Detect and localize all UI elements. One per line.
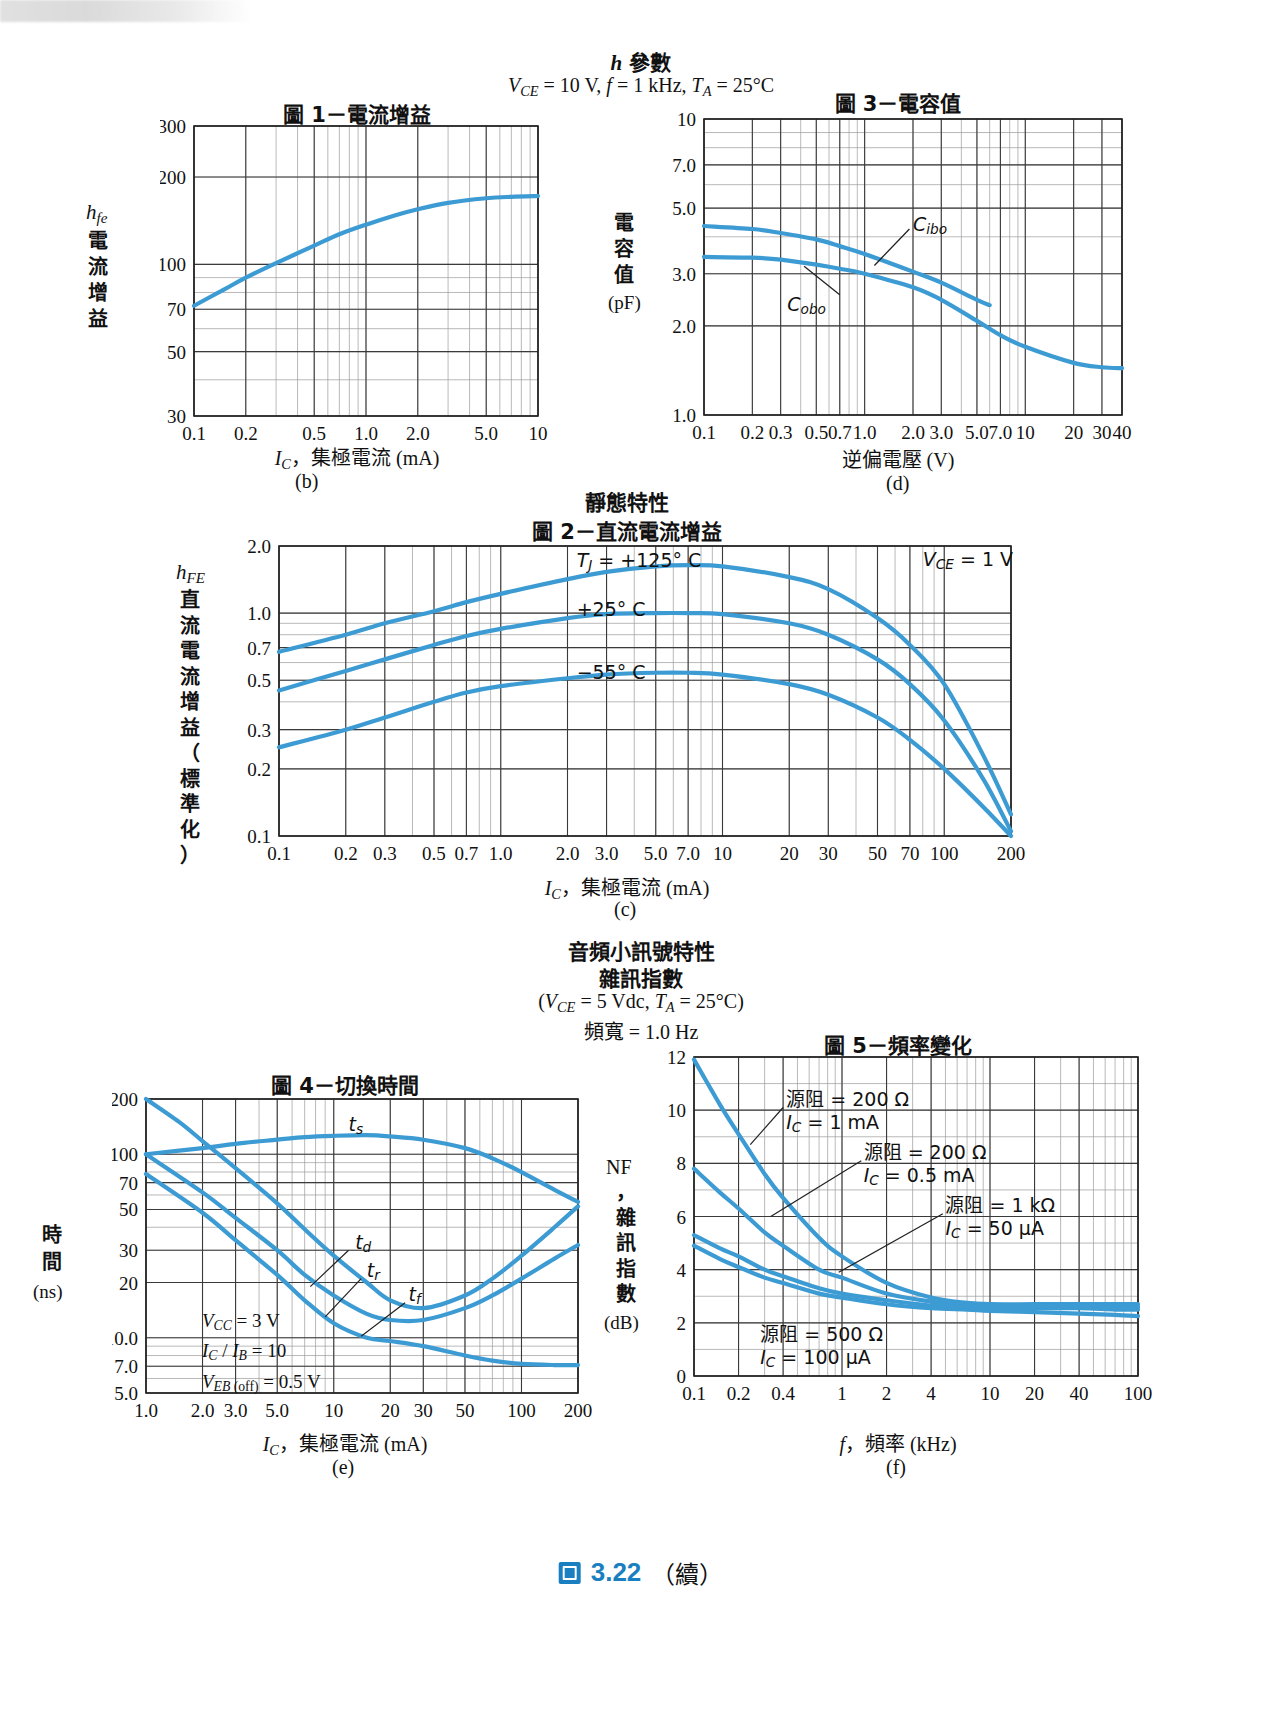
svg-text:5.0: 5.0: [474, 423, 498, 444]
svg-text:0.7: 0.7: [828, 422, 852, 443]
fig5-ylabel-symbol: NF: [606, 1156, 632, 1179]
svg-text:2.0: 2.0: [406, 423, 430, 444]
svg-text:70: 70: [167, 299, 186, 320]
svg-text:0.5: 0.5: [422, 843, 446, 864]
fig5-ylabel-unit: (dB): [604, 1312, 639, 1334]
h-params-title: h 參數: [611, 46, 672, 76]
svg-text:200: 200: [997, 843, 1026, 864]
svg-text:50: 50: [167, 342, 186, 363]
svg-text:70: 70: [900, 843, 919, 864]
svg-text:2.0: 2.0: [191, 1400, 215, 1421]
static-characteristics-title: 靜態特性: [585, 486, 669, 516]
fig2-panel-label: (c): [614, 898, 636, 921]
svg-text:10: 10: [713, 843, 732, 864]
svg-text:10: 10: [981, 1383, 1000, 1404]
fig5-annotation-1: 源阻 = 200 ΩIC = 0.5 mA: [864, 1141, 987, 1192]
figure-number: 3.22: [591, 1557, 642, 1588]
fig2-annotation-3: VCE = 1 V: [923, 548, 1013, 576]
fig2-ylabel: 直流電流增益（標準化）: [180, 588, 200, 869]
fig1-svg: 0.10.20.51.02.05.010305070100200300: [160, 120, 600, 466]
svg-text:0.5: 0.5: [302, 423, 326, 444]
svg-text:0.3: 0.3: [769, 422, 793, 443]
svg-text:200: 200: [112, 1093, 138, 1110]
svg-text:10: 10: [667, 1100, 686, 1121]
svg-text:20: 20: [1025, 1383, 1044, 1404]
svg-text:12: 12: [667, 1051, 686, 1068]
svg-text:2: 2: [677, 1313, 687, 1334]
h-params-condition: VCE = 10 V, f = 1 kHz, TA = 25°C: [508, 74, 774, 100]
fig5-annotation-2: 源阻 = 1 kΩIC = 50 µA: [945, 1194, 1055, 1245]
svg-text:20: 20: [381, 1400, 400, 1421]
svg-text:5.0: 5.0: [644, 843, 668, 864]
fig1-panel-label: (b): [295, 470, 318, 493]
svg-text:0.5: 0.5: [247, 670, 271, 691]
svg-text:0: 0: [677, 1366, 687, 1387]
noise-figure-title: 雜訊指數: [599, 962, 683, 992]
svg-text:5.0: 5.0: [965, 422, 989, 443]
svg-text:7.0: 7.0: [114, 1356, 138, 1377]
fig2-curve--55C: [279, 673, 1011, 836]
fig5-annotation-0: 源阻 = 200 ΩIC = 1 mA: [786, 1088, 909, 1139]
svg-text:3.0: 3.0: [672, 264, 696, 285]
fig1-plot: 0.10.20.51.02.05.010305070100200300: [160, 120, 600, 466]
svg-text:7.0: 7.0: [676, 843, 700, 864]
svg-text:50: 50: [455, 1400, 474, 1421]
fig2-svg: 0.10.20.30.50.71.02.03.05.07.01020305070…: [245, 540, 1075, 886]
svg-text:1.0: 1.0: [853, 422, 877, 443]
datasheet-page: h 參數 VCE = 10 V, f = 1 kHz, TA = 25°C 圖 …: [0, 0, 1282, 1731]
svg-text:1.0: 1.0: [354, 423, 378, 444]
fig2-plot: 0.10.20.30.50.71.02.03.05.07.01020305070…: [245, 540, 1075, 886]
svg-text:0.7: 0.7: [247, 638, 271, 659]
svg-text:30: 30: [119, 1240, 138, 1261]
svg-text:2: 2: [882, 1383, 892, 1404]
fig2-ylabel-symbol: hFE: [176, 560, 205, 587]
fig4-annotation-2: tr: [367, 1259, 380, 1287]
svg-text:20: 20: [1064, 422, 1083, 443]
fig4-ylabel-unit: (ns): [33, 1281, 63, 1303]
svg-text:0.2: 0.2: [334, 843, 358, 864]
svg-text:0.7: 0.7: [455, 843, 479, 864]
fig2-annotation-2: −55° C: [577, 661, 646, 684]
fig4-annotation-3: tf: [408, 1283, 420, 1311]
svg-text:0.2: 0.2: [247, 759, 271, 780]
svg-text:20: 20: [119, 1273, 138, 1294]
noise-figure-condition-2: 頻寬 = 1.0 Hz: [584, 1016, 699, 1045]
svg-text:5.0: 5.0: [672, 198, 696, 219]
fig3-ylabel-unit: (pF): [608, 292, 641, 314]
svg-text:0.2: 0.2: [727, 1383, 751, 1404]
svg-text:70: 70: [119, 1173, 138, 1194]
svg-text:0.3: 0.3: [247, 720, 271, 741]
svg-text:0.3: 0.3: [373, 843, 397, 864]
svg-text:3.0: 3.0: [595, 843, 619, 864]
fig3-plot: 0.10.20.30.50.71.02.03.05.07.0102030401.…: [670, 113, 1185, 467]
fig4-xlabel: IC，集極電流 (mA): [263, 1428, 428, 1459]
scan-artifact: [0, 0, 250, 22]
svg-text:40: 40: [1070, 1383, 1089, 1404]
svg-text:0.4: 0.4: [771, 1383, 795, 1404]
fig4-annotation-0: ts: [349, 1113, 364, 1141]
fig3-svg: 0.10.20.30.50.71.02.03.05.07.0102030401.…: [670, 113, 1185, 467]
svg-text:30: 30: [414, 1400, 433, 1421]
svg-text:5.0: 5.0: [265, 1400, 289, 1421]
fig3-xlabel: 逆偏電壓 (V): [842, 444, 955, 473]
svg-text:30: 30: [167, 406, 186, 427]
fig3-annotation-0: Cibo: [913, 213, 947, 241]
fig5-panel-label: (f): [886, 1456, 906, 1479]
fig1-ylabel-symbol: hfe: [86, 200, 107, 227]
svg-text:50: 50: [868, 843, 887, 864]
fig2-annotation-0: TJ = +125° C: [577, 549, 702, 577]
fig4-conditions: VCC = 3 VIC / IB = 10VEB (off) = 0.5 V: [202, 1308, 321, 1399]
svg-text:2.0: 2.0: [672, 316, 696, 337]
svg-text:10.0: 10.0: [112, 1328, 138, 1349]
svg-text:0.5: 0.5: [804, 422, 828, 443]
svg-text:1.0: 1.0: [247, 603, 271, 624]
fig3-annotation-1: Cobo: [787, 293, 826, 321]
fig3-ylabel: 電容值: [614, 210, 634, 288]
svg-text:2.0: 2.0: [247, 540, 271, 557]
fig3-panel-label: (d): [886, 472, 909, 495]
svg-text:4: 4: [926, 1383, 936, 1404]
fig1-xlabel: IC，集極電流 (mA): [275, 442, 440, 473]
svg-text:2.0: 2.0: [901, 422, 925, 443]
fig2-curve-+25C: [279, 613, 1011, 831]
page-top-band: [0, 0, 1282, 24]
